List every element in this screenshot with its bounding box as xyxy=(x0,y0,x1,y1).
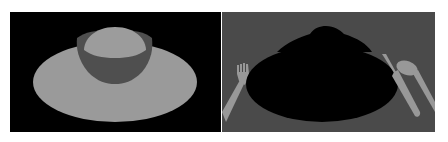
table-setting-image-panel: Black hat silhouette as a plate with for… xyxy=(222,12,435,132)
hat-illustration xyxy=(10,12,221,132)
hat-image-panel: Gray wide-brim hat with dark band on bla… xyxy=(10,12,221,132)
table-setting-illustration xyxy=(222,12,435,132)
